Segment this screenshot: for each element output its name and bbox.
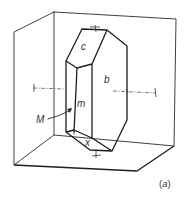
face-c bbox=[66, 29, 107, 68]
reference-box bbox=[14, 12, 176, 171]
right-axis-line bbox=[113, 91, 156, 93]
label-m: m bbox=[77, 98, 85, 109]
back-wall bbox=[54, 12, 176, 146]
top-axis-stub bbox=[95, 25, 96, 32]
label-c: c bbox=[81, 41, 86, 52]
right-axis-tick bbox=[155, 88, 156, 97]
label-x: x bbox=[84, 137, 91, 148]
face-b-outline bbox=[107, 30, 127, 151]
crystal bbox=[66, 29, 127, 151]
bottom-axis-tick bbox=[92, 155, 101, 156]
m-arrow-line bbox=[48, 110, 71, 119]
m-arrow-head bbox=[67, 108, 72, 113]
label-M: M bbox=[36, 114, 45, 125]
left-axis-line bbox=[33, 88, 66, 89]
figure-caption: (a) bbox=[159, 178, 171, 189]
crystal-diagram: c b m M x (a) bbox=[0, 0, 189, 200]
axes bbox=[33, 25, 156, 158]
label-b: b bbox=[104, 74, 110, 85]
m-pointer bbox=[48, 108, 72, 119]
